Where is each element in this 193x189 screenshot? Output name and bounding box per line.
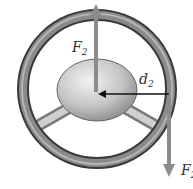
- label-force-up: F2: [71, 39, 88, 57]
- label-distance: d2: [139, 71, 154, 89]
- label-force-down: F2: [180, 162, 193, 180]
- steering-wheel-diagram: F2 d2 F2: [0, 0, 193, 189]
